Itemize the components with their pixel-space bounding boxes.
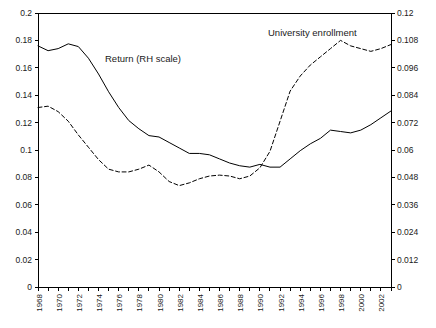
y2-tick-label: 0.12: [397, 8, 414, 18]
y-tick-label: 0.14: [15, 90, 32, 100]
x-tick-label: 1978: [135, 293, 144, 311]
y-tick-label: 0.02: [15, 255, 32, 265]
y2-tick-label: 0.096: [397, 63, 419, 73]
y-tick-label: 0.06: [15, 200, 32, 210]
chart-container: 1968197019721974197619781980198219841986…: [0, 0, 436, 328]
y2-tick-label: 0.024: [397, 227, 419, 237]
annotation-label: Return (RH scale): [105, 53, 181, 64]
x-tick-label: 1998: [337, 293, 346, 311]
y-tick-label: 0.18: [15, 35, 32, 45]
y2-tick-label: 0.084: [397, 90, 419, 100]
x-tick-label: 2002: [377, 293, 386, 311]
y-tick-label: 0.12: [15, 118, 32, 128]
x-tick-label: 1980: [156, 293, 165, 311]
x-tick-label: 1968: [35, 293, 44, 311]
y-tick-label: 0: [27, 282, 32, 292]
x-tick-label: 1994: [297, 293, 306, 311]
x-tick-label: 1972: [75, 293, 84, 311]
x-tick-label: 1988: [236, 293, 245, 311]
x-tick-label: 1992: [277, 293, 286, 311]
y2-tick-label: 0.072: [397, 118, 419, 128]
x-tick-label: 2000: [357, 293, 366, 311]
line-chart: 1968197019721974197619781980198219841986…: [0, 0, 436, 328]
y2-tick-label: 0.06: [397, 145, 414, 155]
x-tick-label: 1976: [115, 293, 124, 311]
chart-background: [0, 0, 436, 328]
x-tick-label: 1970: [55, 293, 64, 311]
y2-tick-label: 0.012: [397, 255, 419, 265]
x-tick-label: 1984: [196, 293, 205, 311]
y-tick-label: 0.08: [15, 172, 32, 182]
x-tick-label: 1990: [256, 293, 265, 311]
y-tick-label: 0.16: [15, 63, 32, 73]
y-tick-label: 0.2: [20, 8, 32, 18]
y2-tick-label: 0.036: [397, 200, 419, 210]
y2-tick-label: 0.048: [397, 172, 419, 182]
y2-tick-label: 0.108: [397, 35, 419, 45]
y-tick-label: 0.1: [20, 145, 32, 155]
y-tick-label: 0.04: [15, 227, 32, 237]
x-tick-label: 1996: [317, 293, 326, 311]
annotation-label: University enrollment: [268, 27, 357, 38]
x-tick-label: 1982: [176, 293, 185, 311]
y2-tick-label: 0: [397, 282, 402, 292]
x-tick-label: 1974: [95, 293, 104, 311]
x-tick-label: 1986: [216, 293, 225, 311]
